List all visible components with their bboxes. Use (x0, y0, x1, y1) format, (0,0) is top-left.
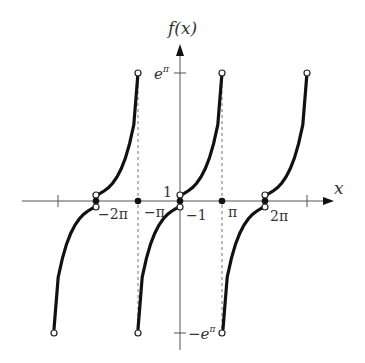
curve-branch-3 (138, 207, 180, 330)
open-point (262, 204, 268, 210)
open-point (51, 330, 57, 336)
open-point (262, 192, 268, 198)
open-point (219, 70, 225, 76)
open-point (177, 204, 183, 210)
open-point (135, 330, 141, 336)
curve-branch-6 (265, 73, 307, 196)
filled-point (262, 198, 269, 205)
curve-branch-2 (96, 73, 138, 196)
neg-e-pi-label: −eπ (188, 324, 216, 343)
filled-point (219, 198, 226, 205)
neg-pi-label: −π (144, 204, 165, 220)
neg-two-pi-label: −2π (98, 206, 128, 222)
one-label: 1 (163, 184, 172, 200)
curve-branch-5 (223, 207, 265, 330)
x-axis-label: x (334, 178, 344, 198)
filled-point (93, 198, 100, 205)
neg-one-label: −1 (186, 207, 207, 223)
open-point (304, 70, 310, 76)
open-point (93, 192, 99, 198)
curve-branch-4 (180, 73, 222, 196)
filled-point (177, 198, 184, 205)
filled-point (135, 198, 142, 205)
x-axis-arrow-icon (323, 197, 334, 205)
open-point (177, 192, 183, 198)
function-graph: f(x) x eπ −eπ 1 −1 −2π −π π 2π (0, 0, 365, 363)
e-pi-label: eπ (154, 64, 170, 83)
pi-label: π (228, 204, 237, 220)
open-point (135, 70, 141, 76)
two-pi-label: 2π (270, 208, 288, 224)
open-point (219, 330, 225, 336)
curve-branch-1 (54, 207, 96, 330)
y-axis-label: f(x) (166, 18, 197, 38)
y-axis-arrow-icon (176, 44, 184, 56)
